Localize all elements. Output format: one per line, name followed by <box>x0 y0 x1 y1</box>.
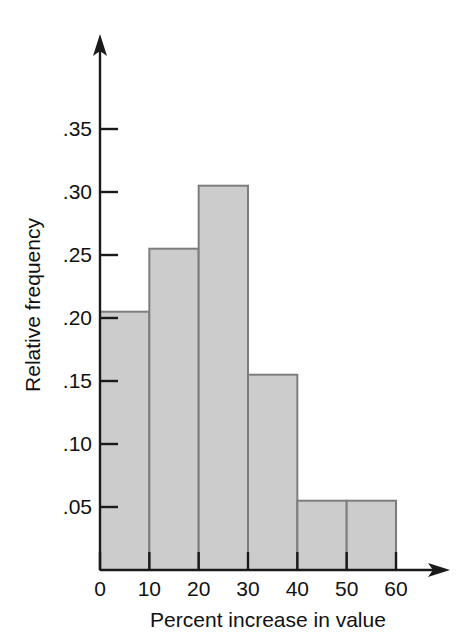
x-axis-tick-label: 40 <box>286 577 309 600</box>
x-axis-tick-labels-group: 0102030405060 <box>94 577 408 600</box>
histogram-bar <box>347 501 396 570</box>
x-axis-tick-label: 50 <box>335 577 358 600</box>
histogram-bar <box>297 501 346 570</box>
histogram-bar <box>248 375 297 570</box>
x-axis-tick-label: 20 <box>187 577 210 600</box>
histogram-bar <box>100 312 149 570</box>
histogram-bar <box>199 186 248 570</box>
y-axis-tick-label: .30 <box>63 180 92 203</box>
y-axis-tick-label: .35 <box>63 117 92 140</box>
bars-group <box>100 186 396 570</box>
x-axis-tick-label: 30 <box>236 577 259 600</box>
histogram-chart: .05.10.15.20.25.30.35 0102030405060 Perc… <box>0 0 476 641</box>
y-axis-tick-label: .15 <box>63 369 92 392</box>
histogram-bar <box>149 249 198 570</box>
histogram-figure: .05.10.15.20.25.30.35 0102030405060 Perc… <box>0 0 476 641</box>
y-axis-tick-label: .10 <box>63 432 92 455</box>
y-axis-tick-label: .20 <box>63 306 92 329</box>
x-axis-tick-label: 60 <box>384 577 407 600</box>
y-axis-title: Relative frequency <box>21 218 44 392</box>
y-axis-tick-labels-group: .05.10.15.20.25.30.35 <box>63 117 92 518</box>
x-axis-tick-label: 10 <box>138 577 161 600</box>
x-axis-tick-label: 0 <box>94 577 106 600</box>
y-axis-tick-label: .25 <box>63 243 92 266</box>
y-axis-tick-label: .05 <box>63 495 92 518</box>
x-axis-title: Percent increase in value <box>150 608 386 631</box>
